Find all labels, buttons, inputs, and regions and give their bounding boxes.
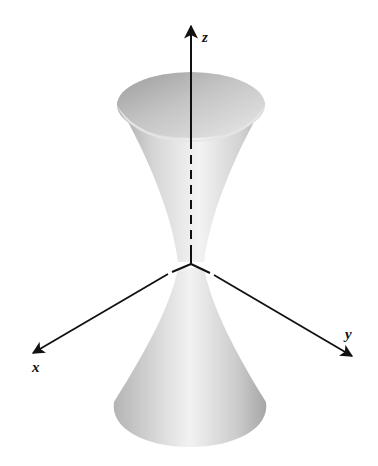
lower-cone-nappe bbox=[114, 268, 267, 447]
y-axis bbox=[214, 275, 352, 356]
z-axis-label: z bbox=[201, 29, 208, 45]
y-axis-label: y bbox=[343, 326, 352, 342]
x-axis-label: x bbox=[31, 359, 40, 375]
double-cone-diagram: z x y bbox=[0, 0, 378, 466]
x-axis bbox=[33, 274, 168, 353]
